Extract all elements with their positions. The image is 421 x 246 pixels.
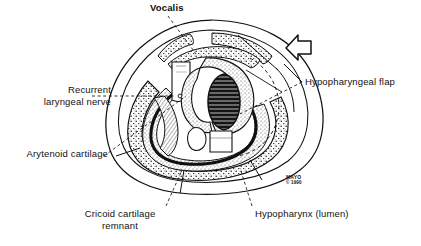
label-vocalis-text: Vocalis <box>150 2 184 13</box>
label-hypopharyngeal-flap: Hypopharyngeal flap <box>305 76 395 88</box>
label-hypopharyngeal-flap-text: Hypopharyngeal flap <box>305 76 395 87</box>
label-cricoid-line2: remnant <box>60 220 180 232</box>
label-recurrent-line1: Recurrent <box>44 84 111 96</box>
label-arytenoid-text: Arytenoid cartilage <box>26 148 108 159</box>
label-hypopharynx-lumen: Hypopharynx (lumen) <box>255 208 349 220</box>
label-recurrent-line2: laryngeal nerve <box>44 96 111 108</box>
mayo-credit: MAYO © 1990 <box>286 174 302 186</box>
lumen-tube <box>188 128 232 152</box>
label-hypopharynx-lumen-text: Hypopharynx (lumen) <box>255 208 349 219</box>
label-vocalis: Vocalis <box>150 2 184 14</box>
label-cricoid-cartilage-remnant: Cricoid cartilage remnant <box>60 208 180 231</box>
label-recurrent-laryngeal-nerve: Recurrent laryngeal nerve <box>44 84 111 107</box>
mayo-copyright: © 1990 <box>286 180 302 186</box>
airway-lumen <box>208 74 240 130</box>
label-arytenoid-cartilage: Arytenoid cartilage <box>26 148 108 160</box>
anatomical-figure: Vocalis Recurrent laryngeal nerve Aryten… <box>0 0 421 246</box>
recurrent-nerve-marker <box>178 94 182 98</box>
label-cricoid-line1: Cricoid cartilage <box>60 208 180 220</box>
